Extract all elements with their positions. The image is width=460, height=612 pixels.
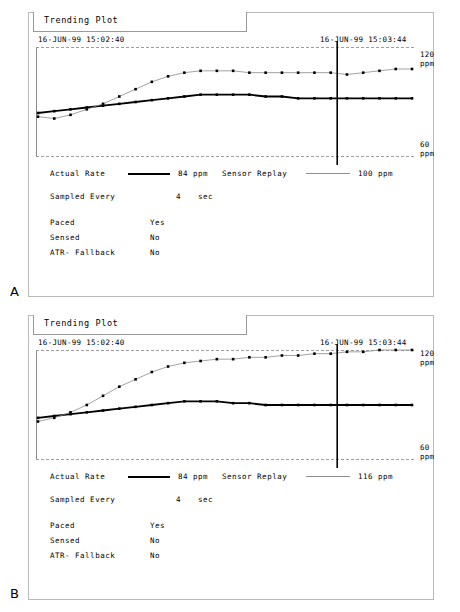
trend-plot-area-b [36,350,414,460]
data-point-marker [37,420,40,423]
scale-label-bottom: 60 ppm [420,140,434,158]
legend-actual-rate-label: Actual Rate [50,169,105,178]
param-value: 4 [176,192,181,201]
legend-actual-rate-swatch [128,476,170,478]
legend-sensor-replay-label: Sensor Replay [222,169,287,178]
data-point-marker [394,404,397,407]
data-point-marker [85,404,88,407]
data-point-marker [134,406,137,409]
param-value: Yes [150,521,165,530]
trend-plot-area-a [36,47,414,157]
param-row-sampled-every: Sampled Every 4 sec [28,495,434,510]
param-value: No [150,551,160,560]
param-unit: sec [198,495,213,504]
data-point-marker [394,349,397,352]
parameter-list-a: Sampled Every 4 sec Paced Yes Sensed No … [28,192,434,263]
data-point-marker [85,411,88,414]
data-point-marker [199,400,202,403]
data-point-marker [248,402,251,405]
trending-plot-panel-a: Trending Plot 16-JUN-99 15:02:40 16-JUN-… [28,12,434,297]
data-point-marker [183,71,186,74]
param-value: No [150,233,160,242]
data-point-marker [329,352,332,355]
data-point-marker [329,97,332,100]
data-point-marker [69,108,72,111]
data-point-marker [85,108,88,111]
data-point-marker [53,117,56,120]
data-point-marker [37,112,40,115]
data-point-marker [216,358,219,361]
data-point-marker [102,395,105,398]
param-key: ATR- Fallback [50,248,115,257]
param-row-atr-fallback: ATR- Fallback No [28,248,434,263]
data-point-marker [411,68,414,71]
trending-plot-panel-b: Trending Plot 16-JUN-99 15:02:40 16-JUN-… [28,315,434,600]
data-point-marker [167,97,170,100]
data-point-marker [37,115,40,118]
param-row-paced: Paced Yes [28,521,434,536]
timestamp-start: 16-JUN-99 15:02:40 [38,35,125,44]
param-value: Yes [150,218,165,227]
data-point-marker [362,351,365,354]
legend-sensor-replay-swatch [306,173,350,174]
row-spacer [28,207,434,218]
timestamp-cursor: 16-JUN-99 15:03:44 [320,35,407,44]
legend-actual-rate-value: 84 ppm [178,169,208,178]
legend-sensor-replay-value: 100 ppm [358,169,393,178]
figure-letter-b: B [10,586,19,601]
data-point-marker [216,70,219,73]
data-point-marker [37,417,40,420]
param-unit: sec [198,192,213,201]
scale-bottom-unit: ppm [420,452,434,461]
param-value: 4 [176,495,181,504]
data-point-marker [248,356,251,359]
scale-label-bottom: 60 ppm [420,443,434,461]
legend-sensor-replay-label: Sensor Replay [222,472,287,481]
scale-label-top: 120 ppm [420,50,434,68]
data-point-marker [199,360,202,363]
data-point-marker [394,97,397,100]
data-point-marker [264,404,267,407]
param-value: No [150,536,160,545]
data-point-marker [313,352,316,355]
data-point-marker [411,404,414,407]
data-point-marker [281,354,284,357]
timestamp-cursor: 16-JUN-99 15:03:44 [320,338,407,347]
data-point-marker [346,351,349,354]
data-point-marker [362,97,365,100]
data-point-marker [151,371,154,374]
data-point-marker [378,70,381,73]
data-point-marker [167,402,170,405]
data-point-marker [69,411,72,414]
data-point-marker [118,385,121,388]
param-key: Sensed [50,233,80,242]
data-point-marker [167,75,170,78]
data-point-marker [313,71,316,74]
data-point-marker [346,73,349,76]
param-key: Sensed [50,536,80,545]
panel-title-tab: Trending Plot [33,315,247,335]
data-point-marker [199,70,202,73]
data-point-marker [264,71,267,74]
data-point-marker [313,404,316,407]
data-point-marker [102,409,105,412]
scale-top-value: 120 [420,50,434,59]
data-point-marker [362,71,365,74]
param-key: Paced [50,521,75,530]
row-spacer [28,510,434,521]
scale-bottom-unit: ppm [420,149,434,158]
legend-actual-rate-label: Actual Rate [50,472,105,481]
data-point-marker [118,103,121,106]
data-point-marker [134,88,137,91]
timestamp-start: 16-JUN-99 15:02:40 [38,338,125,347]
data-point-marker [346,404,349,407]
data-point-marker [281,71,284,74]
param-row-atr-fallback: ATR- Fallback No [28,551,434,566]
data-point-marker [281,95,284,98]
plot-legend-b: Actual Rate 84 ppm Sensor Replay 116 ppm [28,471,434,485]
data-point-marker [183,95,186,98]
data-point-marker [69,114,72,117]
data-point-marker [264,95,267,98]
scale-label-top: 120 ppm [420,349,434,367]
data-point-marker [53,417,56,420]
